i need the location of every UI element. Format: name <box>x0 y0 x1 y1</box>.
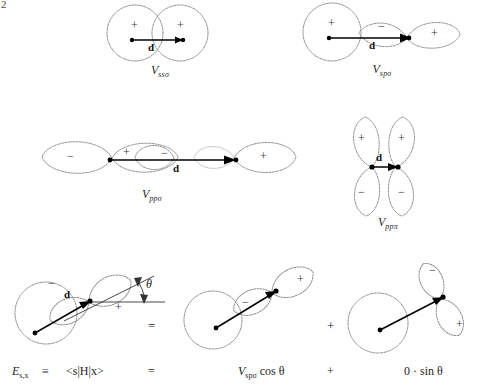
atom-site-left <box>108 158 113 163</box>
sign-plus-2: + <box>260 150 267 162</box>
v-subscript: spσ <box>380 69 392 78</box>
equation-term-1: Vspσ cos θ <box>238 364 285 380</box>
atom-site-right <box>234 158 239 163</box>
atom-site-left <box>327 36 331 40</box>
operator-equals: = <box>148 318 155 334</box>
sign-plus-p: + <box>297 273 304 285</box>
atom-site-right <box>181 38 185 42</box>
decomposition-right-panel: − + <box>340 255 484 355</box>
atom-site-origin <box>214 326 219 331</box>
sign-plus-top-right: + <box>398 132 405 144</box>
term2-coefficient: 0 <box>404 364 410 378</box>
term1-subscript: spσ <box>245 371 256 380</box>
equation-plus: + <box>327 364 334 379</box>
theta-label: θ <box>146 277 152 292</box>
p-positive-lobe <box>266 260 319 304</box>
v-symbol: V <box>372 62 379 76</box>
sign-minus-p: − <box>378 20 385 32</box>
pi-component-drawing <box>340 255 484 355</box>
pp-pi-drawing <box>325 112 455 222</box>
sign-minus-bottom-right: − <box>398 186 405 198</box>
sign-minus-p: − <box>429 264 436 276</box>
d-label: d <box>369 39 375 51</box>
v-subscript: ssσ <box>158 70 169 79</box>
decomposition-left-panel: − + d θ <box>2 248 192 353</box>
sign-plus-p: + <box>456 318 463 330</box>
sign-plus-1: + <box>123 146 130 158</box>
atom-site-target <box>87 298 92 303</box>
panel-ss-sigma: + + d Vssσ <box>80 0 240 90</box>
term1-factor: cos θ <box>260 364 285 378</box>
operator-plus: + <box>327 318 334 334</box>
sign-plus-left: + <box>131 19 138 31</box>
s-orbital <box>348 293 408 353</box>
atom-site-left <box>130 38 134 42</box>
s-orbital <box>303 3 361 61</box>
s-orbital-right <box>152 5 208 61</box>
sign-plus-top-left: + <box>358 132 365 144</box>
equation-lhs: Es,x <box>12 364 28 380</box>
atom-site-target <box>440 294 445 299</box>
bond-vector-line <box>380 298 442 330</box>
p-axis-line <box>64 276 154 321</box>
d-label: d <box>64 288 70 300</box>
panel-label-pp-sigma: Vppσ <box>107 187 197 203</box>
decomposition-middle-panel: − + <box>180 258 330 353</box>
equation-equals: = <box>148 364 155 379</box>
equation-term-2: 0 · sin θ <box>404 364 443 379</box>
p-right-negative-lobe <box>135 146 174 170</box>
theta-arrow-lower <box>140 294 148 304</box>
panel-sp-sigma: + − + d Vspσ <box>285 0 475 90</box>
sp-sigma-drawing <box>285 0 475 70</box>
sign-minus-2: − <box>161 147 168 159</box>
s-orbital <box>184 291 242 349</box>
atom-site-right <box>395 164 400 169</box>
sign-plus-p: + <box>115 301 122 313</box>
panel-label-sp-sigma: Vspσ <box>337 62 427 78</box>
atom-site-left <box>369 164 374 169</box>
page-number: 2 <box>1 0 7 10</box>
d-label: d <box>148 41 154 53</box>
panel-pp-pi: + + − − d Vppπ <box>325 112 455 237</box>
tilted-sp-drawing <box>2 248 192 353</box>
sign-plus-right: + <box>177 19 184 31</box>
atom-site-target <box>273 288 278 293</box>
ss-sigma-drawing <box>80 0 240 70</box>
atom-site-origin <box>378 328 383 333</box>
slater-koster-figure: 2 + + d Vssσ + − + d Vspσ <box>0 0 484 390</box>
sign-minus-bottom-left: − <box>358 186 365 198</box>
p-left-negative-lobe <box>42 142 112 174</box>
equation-identity: ≡ <box>42 364 49 379</box>
panel-pp-sigma: − + − + d Vppσ <box>22 125 302 215</box>
equation-bracket: <s|H|x> <box>66 364 104 379</box>
d-label: d <box>376 151 382 163</box>
sign-plus-s: + <box>328 17 335 29</box>
term2-dot: · <box>413 364 417 378</box>
d-label: d <box>173 162 179 174</box>
panel-label-pp-pi: Vppπ <box>343 215 433 231</box>
sign-plus-p: + <box>431 27 438 39</box>
atom-site-origin <box>33 331 38 336</box>
sign-minus-1: − <box>67 150 74 162</box>
sign-minus-p: − <box>242 296 249 308</box>
panel-label-ss-sigma: Vssσ <box>120 63 200 79</box>
atom-site-right <box>407 36 412 41</box>
s-orbital-left <box>107 5 163 61</box>
equation-row: Es,x ≡ <s|H|x> = Vspσ cos θ + 0 · sin θ <box>0 364 484 386</box>
sign-minus-p: − <box>48 277 55 289</box>
v-subscript: ppπ <box>385 222 398 231</box>
term2-factor: sin θ <box>420 364 443 378</box>
lhs-subscript: s,x <box>19 371 28 380</box>
v-subscript: ppσ <box>149 194 162 203</box>
p-positive-lobe <box>83 268 137 314</box>
sigma-component-drawing <box>180 258 330 353</box>
